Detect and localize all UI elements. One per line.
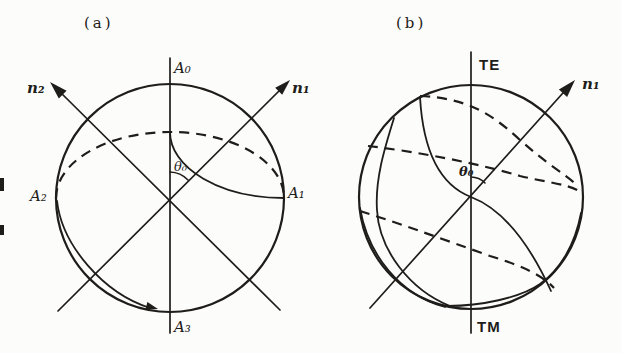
panel-b: (b) TE TM n₁ θ₀ (359, 14, 599, 335)
latitude-dashed-arc-middle-b (368, 146, 579, 191)
label-TE: TE (479, 56, 500, 73)
scan-artifact (0, 178, 4, 191)
label-theta0-b: θ₀ (459, 164, 474, 179)
panel-a: (a) A₀ A₁ A₂ A₃ n₁ (27, 14, 309, 336)
label-n1-a: n₁ (292, 79, 309, 97)
scan-artifact (0, 225, 4, 235)
polarization-sphere-figure: (a) A₀ A₁ A₂ A₃ n₁ (0, 0, 622, 353)
latitude-dashed-arc-lower-b (360, 211, 554, 288)
panel-b-title: (b) (396, 14, 426, 32)
label-TM: TM (477, 318, 501, 335)
label-A0: A₀ (172, 59, 191, 77)
label-A1: A₁ (286, 184, 305, 202)
label-theta0-a: θ₀ (174, 159, 188, 174)
meridian-arc-arrowhead-icon (145, 302, 158, 310)
label-n1-b: n₁ (582, 75, 599, 93)
label-A3: A₃ (172, 318, 191, 336)
latitude-front-arc-lower-left-b (360, 208, 445, 307)
figure-scan: (a) A₀ A₁ A₂ A₃ n₁ (0, 0, 622, 353)
panel-a-title: (a) (84, 14, 114, 32)
latitude-dashed-arc-upper-b (420, 96, 578, 186)
label-A2: A₂ (28, 187, 47, 205)
great-circle-arc-center-b (420, 97, 551, 291)
meridian-arc-left-b (377, 118, 450, 306)
latitude-front-arc-lower-right-b (448, 213, 581, 306)
label-n2-a: n₂ (27, 79, 45, 97)
